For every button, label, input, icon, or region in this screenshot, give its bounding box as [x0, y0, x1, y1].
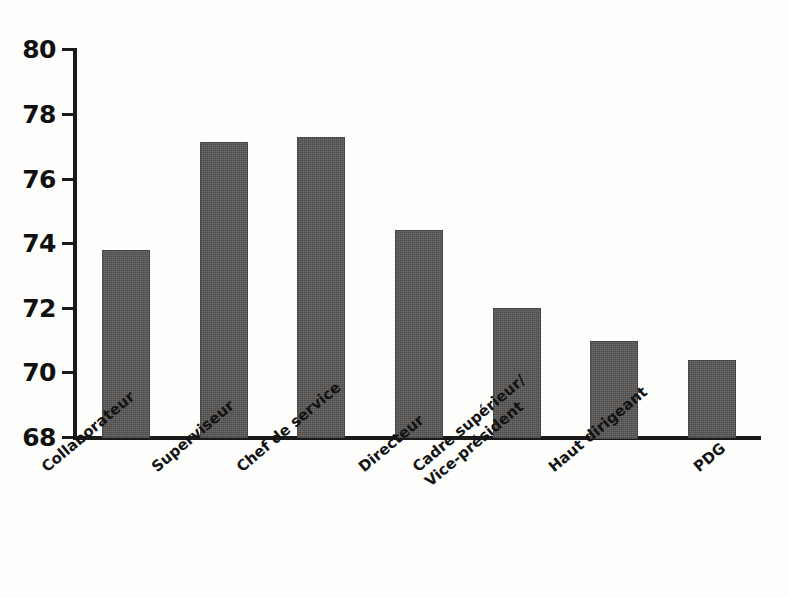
y-tick-72: 72 [62, 307, 75, 310]
y-tick-mark [62, 178, 75, 181]
y-tick-76: 76 [62, 178, 75, 181]
x-label-pdg: PDG [690, 439, 730, 477]
y-tick-mark [62, 48, 75, 51]
y-tick-70: 70 [62, 371, 75, 374]
y-tick-label: 72 [22, 293, 62, 322]
y-tick-78: 78 [62, 113, 75, 116]
y-tick-mark [62, 371, 75, 374]
bar-superviseur [200, 142, 248, 438]
y-tick-label: 76 [22, 164, 62, 193]
bar-pdg [688, 360, 736, 438]
bar-chart: 80 78 76 74 72 70 68 [0, 0, 789, 597]
y-tick-label: 74 [22, 228, 62, 257]
y-tick-label: 78 [22, 99, 62, 128]
y-tick-label: 70 [22, 357, 62, 386]
y-tick-80: 80 [62, 48, 75, 51]
y-tick-mark [62, 113, 75, 116]
y-tick-mark [62, 242, 75, 245]
y-tick-74: 74 [62, 242, 75, 245]
y-tick-label: 80 [22, 34, 62, 63]
y-tick-mark [62, 307, 75, 310]
bar-directeur [395, 230, 443, 438]
chart-page: 80 78 76 74 72 70 68 [0, 0, 789, 597]
